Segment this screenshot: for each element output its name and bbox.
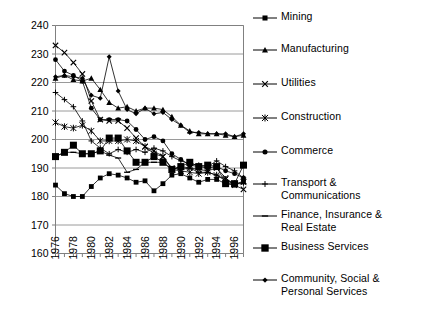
legend-item-manufacturing[interactable]: Manufacturing [252,42,436,57]
data-point-marker [142,159,149,166]
data-point-marker [71,60,76,65]
data-point-marker [152,134,157,139]
data-point-marker [159,159,166,166]
data-point-marker [133,147,139,153]
data-point-marker [106,135,113,142]
data-point-marker [177,163,184,170]
data-point-marker [98,176,103,181]
data-point-marker [161,181,166,186]
legend-item-transport-communications[interactable]: Transport & Communications [252,176,436,201]
data-point-marker [142,150,148,156]
legend-item-commerce[interactable]: Commerce [252,144,436,159]
square-marker-icon [252,11,278,25]
data-point-marker [160,148,166,154]
data-point-marker [223,164,229,170]
legend-item-label: Mining [281,10,313,23]
legend-item-label: Commerce [281,144,333,157]
legend-item-label: Business Services [281,240,368,253]
x-tick-label: 1990 [175,236,187,260]
y-tick-label: 170 [31,219,49,231]
triangle-marker-icon [252,43,278,57]
data-point-marker [88,128,94,135]
x-marker-icon [252,77,278,91]
x-tick-label: 1982 [103,236,115,260]
legend-item-finance-insurance-real-estate[interactable]: Finance, Insurance & Real Estate [252,208,436,233]
x-tick-label: 1994 [210,236,222,260]
data-point-marker [62,191,67,196]
data-point-marker [125,176,130,181]
data-point-marker [214,158,220,164]
data-point-marker [134,180,139,185]
legend-item-community-social-personal-services[interactable]: Community, Social & Personal Services [252,272,436,297]
x-tick-label: 1978 [67,236,79,260]
data-point-marker [70,142,77,149]
legend-item-business-services[interactable]: Business Services [252,240,436,255]
data-point-marker [88,150,95,157]
data-point-marker [62,50,67,55]
data-point-marker [115,147,121,153]
y-tick-label: 240 [31,19,49,31]
data-point-marker [107,117,112,122]
legend-item-label: Utilities [281,76,316,89]
data-point-marker [53,74,58,79]
data-point-marker [89,93,94,98]
y-tick-label: 210 [31,105,49,117]
data-point-marker [143,137,148,142]
gridlines [56,26,244,254]
x-tick-label: 1984 [121,236,133,260]
data-point-marker [262,181,268,187]
x-axis-tick-labels: 1976197819801982198419861988199019921994… [49,236,240,260]
data-point-marker [89,106,94,111]
x-tick-label: 1988 [157,236,169,260]
data-point-marker [169,173,174,178]
data-point-marker [80,194,85,199]
data-point-marker [262,15,267,20]
data-point-marker [205,177,210,182]
chart-container: 160170180190200210220230240 197619781980… [0,0,436,313]
y-tick-label: 230 [31,48,49,60]
data-point-marker [98,96,103,101]
data-point-marker [231,180,238,187]
y-tick-label: 200 [31,133,49,145]
data-point-marker [261,244,268,251]
y-axis-tick-labels: 160170180190200210220230240 [31,19,49,259]
x-tick-label: 1986 [139,236,151,260]
data-point-marker [116,89,121,94]
data-point-marker [107,171,112,176]
y-tick-label: 220 [31,76,49,88]
axes [52,26,244,258]
big-square-marker-icon [252,241,278,255]
data-point-marker [61,149,68,156]
data-point-marker [213,163,220,170]
data-point-marker [161,139,166,144]
data-point-marker [262,149,267,154]
x-tick-label: 1976 [49,236,61,260]
data-point-marker [79,150,86,157]
data-point-marker [142,143,148,150]
legend-item-label: Community, Social & Personal Services [281,272,380,297]
data-point-marker [204,162,211,169]
legend-item-construction[interactable]: Construction [252,110,436,125]
data-point-marker [143,178,148,183]
data-point-marker [115,135,122,142]
circle-marker-icon [252,145,278,159]
legend-item-label: Manufacturing [281,42,349,55]
data-point-marker [152,188,157,193]
chart-legend: MiningManufacturingUtilitiesConstruction… [252,0,436,313]
data-point-marker [124,147,131,154]
data-point-marker [195,163,202,170]
data-point-marker [134,127,139,132]
legend-item-mining[interactable]: Mining [252,10,436,25]
data-point-marker [186,159,193,166]
legend-item-label: Construction [281,110,341,123]
data-point-marker [71,194,76,199]
data-point-marker [62,69,67,74]
data-point-marker [187,176,192,181]
data-point-marker [116,117,121,122]
y-tick-label: 180 [31,190,49,202]
legend-item-label: Transport & Communications [281,176,361,201]
x-tick-label: 1996 [228,236,240,260]
legend-item-utilities[interactable]: Utilities [252,76,436,91]
data-point-marker [196,180,201,185]
data-point-marker [222,180,229,187]
